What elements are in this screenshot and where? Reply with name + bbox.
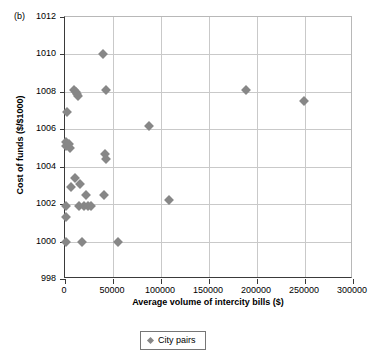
- x-axis-title: Average volume of intercity bills ($): [64, 297, 352, 307]
- y-tick-mark: [60, 167, 65, 168]
- gridline-horizontal: [65, 54, 351, 55]
- scatter-point: [81, 190, 91, 200]
- gridline-vertical: [161, 17, 162, 277]
- y-tick-label: 1012: [36, 11, 56, 21]
- scatter-point: [101, 85, 111, 95]
- x-tick-mark: [305, 279, 306, 284]
- scatter-point: [101, 154, 111, 164]
- gridline-horizontal: [65, 129, 351, 130]
- y-tick-mark: [60, 129, 65, 130]
- scatter-point: [77, 237, 87, 247]
- y-tick-label: 1004: [36, 161, 56, 171]
- x-tick-mark: [209, 279, 210, 284]
- x-tick-mark: [353, 279, 354, 284]
- y-tick-mark: [60, 54, 65, 55]
- x-tick-mark: [161, 279, 162, 284]
- chart-figure: (b) Cost of funds ($/$1000) 998100010021…: [0, 0, 378, 362]
- gridline-horizontal: [65, 167, 351, 168]
- legend-label: City pairs: [158, 335, 196, 346]
- x-tick-mark: [257, 279, 258, 284]
- y-tick-label: 1010: [36, 48, 56, 58]
- x-tick-label: 200000: [241, 285, 271, 295]
- scatter-point: [61, 212, 71, 222]
- gridline-vertical: [305, 17, 306, 277]
- scatter-point: [113, 237, 123, 247]
- scatter-point: [62, 107, 72, 117]
- scatter-point: [99, 190, 109, 200]
- x-tick-label: 150000: [193, 285, 223, 295]
- scatter-point: [241, 85, 251, 95]
- panel-label: (b): [14, 11, 25, 22]
- y-axis-title: Cost of funds ($/$1000): [15, 45, 25, 245]
- gridline-vertical: [257, 17, 258, 277]
- gridline-horizontal: [65, 204, 351, 205]
- gridline-vertical: [113, 17, 114, 277]
- x-tick-mark: [113, 279, 114, 284]
- x-tick-label: 100000: [145, 285, 175, 295]
- y-tick-label: 1008: [36, 86, 56, 96]
- scatter-point: [61, 201, 71, 211]
- x-tick-label: 50000: [99, 285, 124, 295]
- plot-area: [64, 16, 352, 278]
- x-tick-mark: [65, 279, 66, 284]
- gridline-vertical: [209, 17, 210, 277]
- y-tick-label: 1000: [36, 236, 56, 246]
- scatter-point: [299, 96, 309, 106]
- y-tick-label: 1006: [36, 123, 56, 133]
- legend-marker-icon: [147, 337, 154, 344]
- x-tick-label: 0: [61, 285, 66, 295]
- y-tick-mark: [60, 92, 65, 93]
- legend: City pairs: [140, 331, 206, 350]
- x-tick-label: 250000: [289, 285, 319, 295]
- y-tick-label: 998: [41, 273, 56, 283]
- y-tick-label: 1002: [36, 198, 56, 208]
- y-tick-mark: [60, 17, 65, 18]
- scatter-point: [61, 237, 71, 247]
- x-tick-label: 300000: [337, 285, 367, 295]
- gridline-horizontal: [65, 242, 351, 243]
- scatter-point: [98, 49, 108, 59]
